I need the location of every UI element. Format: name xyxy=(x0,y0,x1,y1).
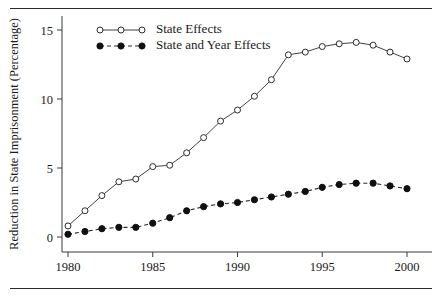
axes-group: 05101519801985199019952000 xyxy=(41,16,433,274)
legend-marker xyxy=(118,27,124,33)
data-point xyxy=(319,44,325,50)
data-point xyxy=(387,183,393,189)
data-point xyxy=(285,191,291,197)
data-point xyxy=(217,201,223,207)
data-point xyxy=(336,181,342,187)
y-tick-label: 15 xyxy=(41,24,54,38)
series-group xyxy=(65,39,410,237)
legend-label: State and Year Effects xyxy=(156,37,271,52)
data-point xyxy=(353,39,359,45)
data-point xyxy=(319,184,325,190)
data-point xyxy=(235,107,241,113)
legend-marker xyxy=(139,27,145,33)
y-tick-label: 5 xyxy=(47,162,53,176)
data-point xyxy=(251,197,257,203)
data-point xyxy=(167,215,173,221)
data-point xyxy=(65,231,71,237)
data-point xyxy=(336,41,342,47)
legend-label: State Effects xyxy=(156,21,222,36)
data-point xyxy=(184,208,190,214)
legend-marker xyxy=(97,27,103,33)
data-point xyxy=(99,193,105,199)
data-point xyxy=(285,52,291,58)
data-point xyxy=(268,77,274,83)
y-axis-title: Reduction in State Imprisonment (Percent… xyxy=(7,18,21,250)
data-point xyxy=(133,224,139,230)
data-point xyxy=(218,118,224,124)
series-path-state-effects xyxy=(68,42,407,226)
x-tick-label: 2000 xyxy=(395,260,420,274)
y-tick-label: 0 xyxy=(47,231,53,245)
data-point xyxy=(302,188,308,194)
x-tick-label: 1995 xyxy=(310,260,335,274)
data-point xyxy=(82,228,88,234)
data-point xyxy=(404,56,410,62)
data-point xyxy=(201,135,207,141)
data-point xyxy=(150,164,156,170)
chart-legend: State EffectsState and Year Effects xyxy=(97,21,271,52)
data-point xyxy=(116,224,122,230)
data-point xyxy=(302,49,308,55)
data-point xyxy=(370,180,376,186)
data-point xyxy=(65,223,71,229)
data-point xyxy=(353,180,359,186)
data-point xyxy=(387,49,393,55)
legend-marker xyxy=(97,43,103,49)
data-point xyxy=(116,179,122,185)
data-point xyxy=(234,199,240,205)
legend-marker xyxy=(118,43,124,49)
data-point xyxy=(150,220,156,226)
line-chart: 05101519801985199019952000 State Effects… xyxy=(0,0,442,298)
data-point xyxy=(404,186,410,192)
y-tick-label: 10 xyxy=(41,93,54,107)
data-point xyxy=(251,93,257,99)
data-point xyxy=(99,226,105,232)
data-point xyxy=(82,208,88,214)
figure-container: 05101519801985199019952000 State Effects… xyxy=(0,0,442,298)
data-point xyxy=(268,194,274,200)
data-point xyxy=(167,162,173,168)
x-tick-label: 1990 xyxy=(225,260,250,274)
x-tick-label: 1985 xyxy=(140,260,165,274)
data-point xyxy=(133,176,139,182)
data-point xyxy=(201,204,207,210)
legend-marker xyxy=(139,43,145,49)
data-point xyxy=(184,150,190,156)
data-point xyxy=(370,42,376,48)
x-tick-label: 1980 xyxy=(56,260,81,274)
